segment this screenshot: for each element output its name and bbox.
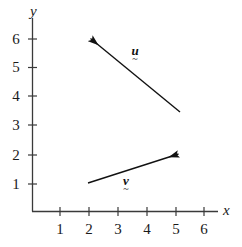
x-tick-label-4: 4: [139, 222, 155, 237]
y-tick-label-5: 5: [8, 60, 24, 75]
x-tick-label-6: 6: [196, 222, 212, 237]
y-tick-label-6: 6: [8, 32, 24, 47]
vector-diagram-figure: y x 6 5 4 3 2 1 1 2 3 4 5 6 u ~ v ~: [0, 0, 242, 247]
y-tick-label-1: 1: [8, 177, 24, 192]
vector-label-u-tilde: ~: [128, 54, 142, 64]
y-axis-label: y: [30, 4, 37, 19]
vector-label-v-tilde: ~: [119, 184, 133, 194]
x-tick-label-2: 2: [81, 222, 97, 237]
vector-arrow-v: [88, 154, 179, 183]
y-tick-label-4: 4: [8, 89, 24, 104]
y-tick-label-2: 2: [8, 148, 24, 163]
y-tick-label-3: 3: [8, 118, 24, 133]
x-tick-label-5: 5: [168, 222, 184, 237]
x-axis-label: x: [223, 203, 230, 218]
x-tick-label-3: 3: [110, 222, 126, 237]
x-tick-label-1: 1: [52, 222, 68, 237]
plot-canvas: [0, 0, 242, 247]
